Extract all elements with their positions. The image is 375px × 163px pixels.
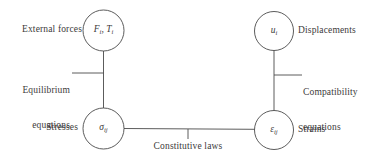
diagram-canvas: Fi, Ti ui σij εij External forces Displa… (0, 0, 375, 163)
label-compatibility-equations: Compatibility equations (303, 64, 373, 156)
label-compatibility-line1: Compatibility (303, 87, 373, 99)
symbol-sigma-subscript: ij (104, 126, 108, 133)
node-symbol-external-forces: Fi, Ti (83, 24, 124, 34)
node-symbol-stresses: σij (83, 122, 124, 132)
symbol-epsilon-subscript: ij (274, 128, 278, 135)
symbol-u-subscript: i (275, 29, 277, 36)
label-equilibrium-equations: Equilibrium equations (2, 62, 70, 154)
symbol-F: F (94, 24, 100, 34)
label-constitutive-laws: Constitutive laws (133, 141, 243, 153)
node-symbol-strains: εij (254, 124, 294, 134)
node-symbol-displacements: ui (254, 25, 294, 35)
label-displacements: Displacements (298, 25, 374, 37)
edge-constitutive-line (124, 129, 255, 130)
label-equilibrium-line1: Equilibrium (2, 85, 70, 97)
symbol-T-subscript: i (111, 28, 113, 35)
label-external-forces: External forces (6, 24, 82, 36)
label-equilibrium-line2: equations (2, 120, 70, 132)
label-compatibility-line2: equations (303, 122, 373, 134)
